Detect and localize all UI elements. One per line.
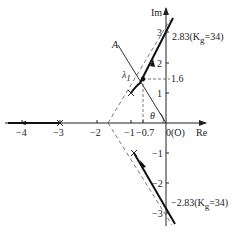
lambda1-label: λ1 [121, 69, 131, 83]
theta-label: θ [150, 110, 155, 121]
y-tick-label: −3 [152, 208, 163, 219]
x-tick-label: −3 [53, 127, 64, 138]
y-tick-label: 2 [157, 58, 162, 69]
x-tick-label: −1 [124, 127, 135, 138]
locus-branch-real [8, 121, 60, 125]
root-locus-diagram: −4 −3 −2 −1 −0.7 0(O) Re 3 2 1 −1 −2 −3 … [0, 0, 233, 237]
upper-crossing-label: 2.83(Kg=34) [172, 31, 224, 45]
lower-crossing-label: −2.83(Kg=34) [171, 197, 228, 211]
x-tick-label: −4 [16, 127, 27, 138]
y-tick-label: 1 [157, 88, 162, 99]
y-axis-label: Im [151, 7, 162, 18]
x-tick-label: −0.7 [136, 127, 154, 138]
line-A-label: A [111, 39, 119, 50]
x-axis-label: Re [196, 127, 208, 138]
x-tick-label: −2 [90, 127, 101, 138]
y-tick-label: 3 [157, 27, 162, 38]
origin-label: 0(O) [166, 127, 185, 139]
lambda1-point [141, 77, 145, 81]
im-value-label: 1.6 [171, 73, 184, 84]
y-tick-label: −1 [152, 148, 163, 159]
damping-line-A: A [111, 39, 166, 123]
pole-marker [128, 90, 134, 96]
locus-branch-upper [131, 18, 173, 93]
pole-marker [131, 150, 137, 156]
